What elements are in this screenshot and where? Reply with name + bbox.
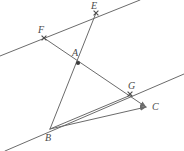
- point-marker-a: [76, 61, 80, 65]
- point-label-a: A: [72, 48, 78, 58]
- point-label-e: E: [91, 1, 97, 11]
- geometry-canvas: [0, 0, 184, 151]
- transversal-F-A-G-C: [44, 38, 146, 107]
- point-label-b: B: [45, 133, 51, 143]
- point-label-g: G: [128, 81, 135, 91]
- lower-parallel-line: [5, 74, 184, 151]
- segment-B-C: [50, 107, 146, 129]
- geometry-figure: FEAGCB: [0, 0, 184, 151]
- upper-parallel-line: [0, 0, 140, 56]
- point-label-f: F: [38, 25, 44, 35]
- point-label-c: C: [152, 102, 159, 112]
- segments-group: [0, 0, 184, 151]
- transversal-B-A-E: [50, 13, 96, 129]
- point-marker-e: [94, 11, 99, 16]
- segment-B-G: [50, 95, 131, 129]
- point-markers-group: [42, 11, 133, 97]
